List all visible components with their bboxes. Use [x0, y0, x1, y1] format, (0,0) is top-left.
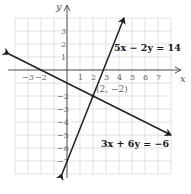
svg-text:2: 2 [91, 73, 96, 82]
equation-label-2: 3x + 6y = −6 [101, 138, 170, 149]
svg-text:7: 7 [156, 73, 161, 82]
svg-text:1: 1 [61, 53, 66, 62]
line-3x-6y-neg6 [9, 54, 171, 135]
graph: x y −3−21234567321−2−3−4−5−6−7 (2, −2) 5… [0, 0, 191, 194]
svg-text:3: 3 [61, 27, 66, 36]
svg-text:3: 3 [104, 73, 109, 82]
y-axis-label: y [55, 1, 62, 12]
svg-text:−2: −2 [57, 92, 69, 101]
svg-text:−2: −2 [35, 73, 47, 82]
x-axis-label: x [180, 73, 186, 84]
svg-text:5: 5 [130, 73, 135, 82]
intersection-label: (2, −2) [96, 84, 128, 94]
svg-text:1: 1 [78, 73, 83, 82]
svg-text:−3: −3 [57, 105, 69, 114]
svg-text:−4: −4 [57, 118, 69, 127]
svg-text:−3: −3 [22, 73, 34, 82]
svg-text:2: 2 [61, 40, 66, 49]
svg-text:4: 4 [117, 73, 122, 82]
svg-text:−6: −6 [57, 144, 69, 153]
intersection-point [91, 94, 94, 97]
svg-text:−5: −5 [57, 131, 69, 140]
equation-label-1: 5x − 2y = 14 [114, 42, 181, 53]
svg-text:6: 6 [143, 73, 148, 82]
